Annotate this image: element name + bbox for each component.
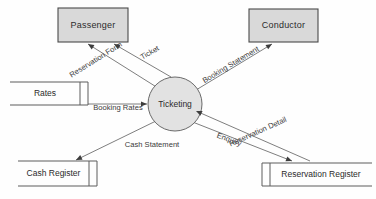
process-ticketing[interactable]: Ticketing — [148, 77, 202, 131]
flow-label-ticket: Ticket — [139, 43, 162, 61]
flow-label-booking-rates: Booking Rates — [93, 103, 143, 112]
process-label: Ticketing — [158, 99, 192, 109]
arrow-head-booking-statement — [266, 44, 272, 49]
entity-labels-group: PassengerConductor — [71, 20, 306, 31]
store-label-reservation-register: Reservation Register — [281, 169, 361, 179]
entity-label-conductor: Conductor — [262, 20, 305, 30]
entity-label-passenger: Passenger — [71, 20, 116, 30]
store-label-rates: Rates — [34, 88, 56, 98]
flow-label-cash-statement: Cash Statement — [125, 140, 180, 149]
dfd-canvas: Ticketing Reservation FormTicketBooking … — [0, 0, 376, 199]
arrow-head-booking-rates — [141, 101, 147, 106]
flow-label-booking-statement: Booking Statement — [201, 44, 261, 85]
arrow-head-reservation-form — [88, 44, 94, 49]
diagram-svg: Ticketing Reservation FormTicketBooking … — [0, 0, 376, 199]
arrow-head-enquiry — [285, 156, 292, 161]
store-label-cash-register: Cash Register — [27, 168, 81, 178]
